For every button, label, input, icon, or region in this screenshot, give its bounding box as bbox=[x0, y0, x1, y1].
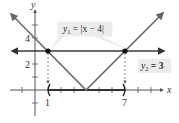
intersection-point-7-3 bbox=[122, 48, 127, 53]
dashed-drop-lines bbox=[48, 53, 125, 83]
callout-y2: y2 = 3 bbox=[138, 59, 171, 73]
x-axis-label: x bbox=[166, 84, 172, 95]
callout-y2-text: y2 = 3 bbox=[140, 61, 164, 72]
intersection-point-1-3 bbox=[45, 48, 50, 53]
y-axis-label: y bbox=[30, 0, 36, 10]
y-tick-label-2: 2 bbox=[25, 59, 30, 70]
absolute-value-inequality-graph: y 4 2 x 1 7 y1 = |x − 4| bbox=[0, 0, 179, 123]
x-axis: x 1 7 bbox=[10, 84, 172, 108]
y-tick-label-4: 4 bbox=[25, 33, 30, 44]
x-tick-label-1: 1 bbox=[45, 97, 50, 108]
x-tick-label-7: 7 bbox=[122, 97, 127, 108]
y-axis: y 4 2 bbox=[25, 0, 38, 116]
callout-y1: y1 = |x − 4| bbox=[52, 22, 124, 48]
